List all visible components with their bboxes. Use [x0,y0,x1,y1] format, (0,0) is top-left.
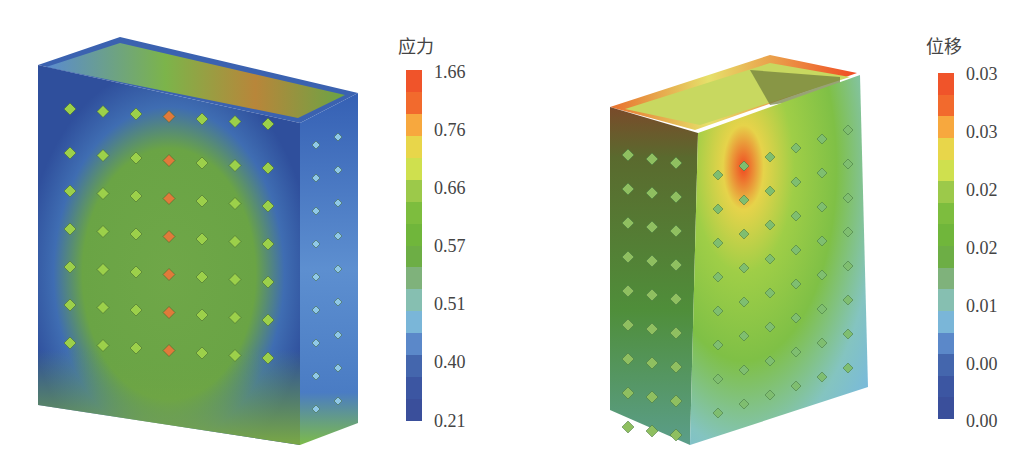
colorbar-segment [938,160,954,182]
colorbar-segment [938,138,954,160]
colorbar-segment [938,354,954,376]
colorbar-segment [938,333,954,355]
colorbar-segment [406,246,422,268]
stress-colorbar [406,70,422,421]
displacement-tick-label: 0.00 [966,354,998,375]
displacement-tick-label: 0.01 [966,296,998,317]
colorbar-segment [406,92,422,114]
colorbar-segment [938,246,954,268]
displacement-colorbar [938,73,954,419]
colorbar-segment [938,224,954,246]
displacement-contour-model [570,25,910,455]
colorbar-segment [406,333,422,355]
stress-tick-label: 0.66 [434,178,466,199]
colorbar-segment [938,73,954,95]
colorbar-segment [938,95,954,117]
stress-tick-label: 1.66 [434,62,466,83]
displacement-tick-label: 0.03 [966,64,998,85]
colorbar-segment [406,70,422,92]
displacement-legend-title: 位移 [926,32,962,58]
colorbar-segment [406,311,422,333]
colorbar-segment [938,203,954,225]
colorbar-segment [406,136,422,158]
colorbar-segment [406,224,422,246]
displacement-tick-label: 0.03 [966,122,998,143]
displacement-tick-label: 0.00 [966,411,998,432]
colorbar-segment [406,202,422,224]
colorbar-segment [938,397,954,419]
colorbar-segment [938,376,954,398]
stress-tick-label: 0.51 [434,294,466,315]
stress-tick-label: 0.40 [434,352,466,373]
displacement-tick-label: 0.02 [966,238,998,259]
displacement-panel: 位移 0.03 0.03 0.02 0.02 0.01 0.00 0.00 [520,0,1036,455]
colorbar-segment [406,289,422,311]
displacement-tick-label: 0.02 [966,180,998,201]
colorbar-segment [406,267,422,289]
colorbar-segment [406,158,422,180]
colorbar-segment [406,114,422,136]
stress-legend-title: 应力 [398,32,434,58]
colorbar-segment [938,116,954,138]
colorbar-segment [406,180,422,202]
colorbar-segment [406,377,422,399]
colorbar-segment [938,181,954,203]
colorbar-segment [938,289,954,311]
stress-tick-label: 0.21 [434,411,466,432]
colorbar-segment [406,355,422,377]
stress-tick-label: 0.57 [434,236,466,257]
colorbar-segment [406,399,422,421]
colorbar-segment [938,268,954,290]
stress-panel: 应力 1.66 0.76 0.66 0.57 0.51 0.40 0.21 [0,0,520,455]
stress-contour-model [0,25,390,455]
stress-tick-label: 0.76 [434,120,466,141]
colorbar-segment [938,311,954,333]
